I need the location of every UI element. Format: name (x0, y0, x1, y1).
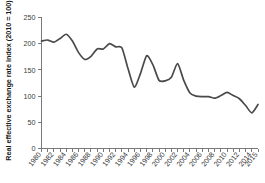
y-tick-label: 50 (28, 118, 36, 127)
y-tick-label: 250 (24, 13, 36, 22)
x-axis-ticks: 1980198219841986198819901992199419961998… (26, 149, 259, 169)
y-tick-label: 200 (24, 39, 36, 48)
y-tick-label: 150 (24, 66, 36, 75)
y-tick-label: 100 (24, 92, 36, 101)
data-series-line (42, 34, 259, 113)
y-axis-ticks: 050100150200250 (24, 13, 42, 153)
line-chart-plot: 050100150200250 198019821984198619881990… (0, 0, 265, 183)
chart-container: Real effective exchange rate index (2010… (0, 0, 265, 183)
